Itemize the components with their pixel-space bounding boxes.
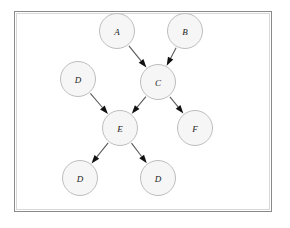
graph-node[interactable]: F [178, 111, 213, 146]
node-label: D [76, 174, 84, 184]
graph-node[interactable]: D [61, 62, 96, 97]
graph-node[interactable]: B [168, 14, 203, 49]
graph-node[interactable]: D [141, 161, 176, 196]
node-label: D [154, 174, 162, 184]
graph-canvas: ABCDEFDD [0, 0, 290, 228]
graph-node[interactable]: D [63, 161, 98, 196]
node-label: E [116, 124, 123, 134]
node-label: C [155, 78, 162, 88]
graph-node[interactable]: A [100, 14, 135, 49]
node-label: A [113, 27, 120, 37]
node-label: D [74, 75, 82, 85]
node-label: F [191, 124, 198, 134]
graph-node[interactable]: E [103, 111, 138, 146]
diagram-figure: ABCDEFDD [0, 0, 290, 228]
graph-node[interactable]: C [141, 65, 176, 100]
node-label: B [182, 27, 188, 37]
